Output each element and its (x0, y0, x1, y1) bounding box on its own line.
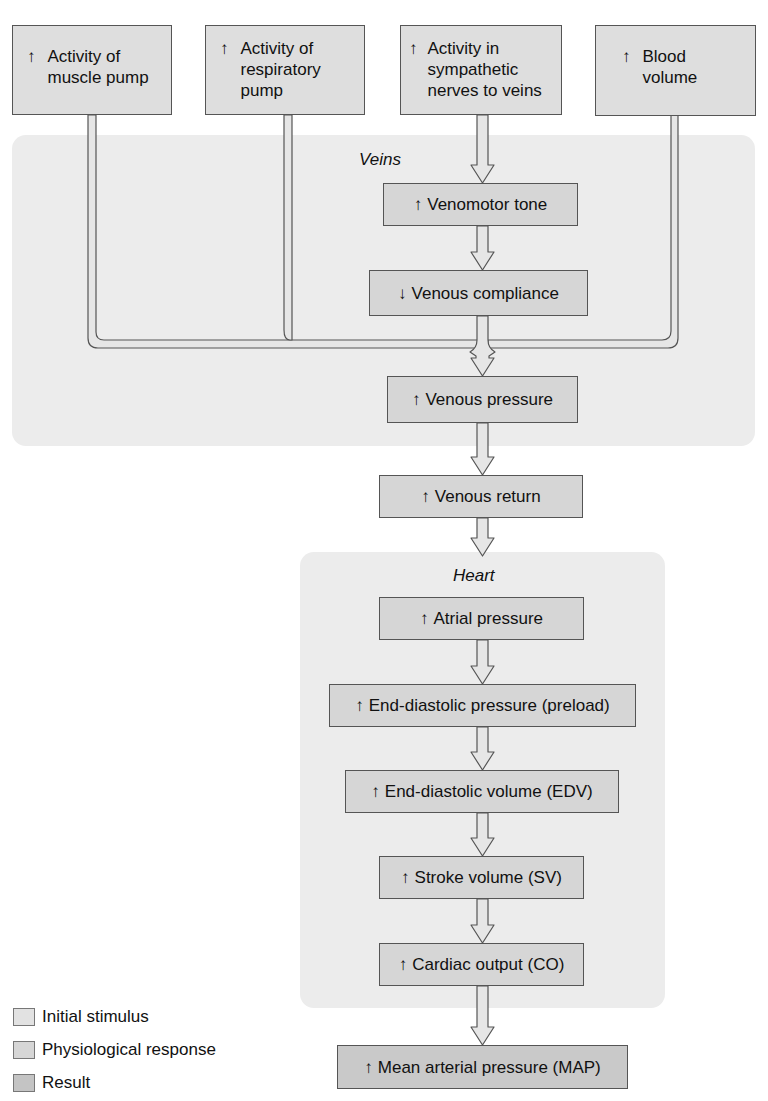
arrow-venomotor-to-compliance (471, 226, 494, 270)
arrow-edv-to-sv (471, 813, 494, 856)
step-stroke-volume: ↑ Stroke volume (SV) (379, 856, 584, 899)
increase-arrow-icon: ↑ (409, 38, 418, 59)
legend-item-result: Result (13, 1066, 216, 1099)
step-label: Venous pressure (425, 389, 553, 410)
increase-arrow-icon: ↑ (421, 486, 430, 507)
result-mean-arterial-pressure: ↑ Mean arterial pressure (MAP) (337, 1045, 628, 1089)
arrow-pressure-to-return (471, 423, 494, 475)
step-venous-compliance: ↓ Venous compliance (369, 270, 588, 316)
step-label: End-diastolic pressure (preload) (369, 695, 610, 716)
increase-arrow-icon: ↑ (420, 608, 429, 629)
stimulus-label: Blood volume (643, 46, 698, 88)
arrow-sympathetic-to-venomotor (471, 115, 494, 183)
step-label: End-diastolic volume (EDV) (385, 781, 593, 802)
increase-arrow-icon: ↑ (412, 389, 421, 410)
increase-arrow-icon: ↑ (414, 194, 423, 215)
legend-label: Initial stimulus (42, 1007, 149, 1027)
stimulus-sympathetic-nerves: ↑ Activity in sympathetic nerves to vein… (400, 25, 562, 115)
legend-item-initial-stimulus: Initial stimulus (13, 1000, 216, 1033)
stimulus-label: Activity in sympathetic nerves to veins (428, 38, 542, 101)
stimulus-blood-volume: ↑ Blood volume (595, 25, 756, 116)
arrow-co-to-map (471, 986, 494, 1045)
increase-arrow-icon: ↑ (355, 695, 364, 716)
stimulus-muscle-pump: ↑ Activity of muscle pump (12, 25, 172, 115)
arrow-return-to-atrial (471, 518, 494, 556)
stimulus-label: Activity of muscle pump (48, 46, 149, 88)
increase-arrow-icon: ↑ (27, 46, 36, 67)
step-label: Stroke volume (SV) (415, 867, 562, 888)
legend-swatch-result (13, 1074, 35, 1092)
step-venous-return: ↑ Venous return (379, 475, 583, 518)
connector-pipes (0, 0, 768, 1101)
legend-label: Result (42, 1073, 90, 1093)
step-cardiac-output: ↑ Cardiac output (CO) (379, 943, 584, 986)
increase-arrow-icon: ↑ (364, 1057, 373, 1078)
legend-swatch-response (13, 1041, 35, 1059)
legend-swatch-stimulus (13, 1008, 35, 1026)
step-label: Atrial pressure (433, 608, 543, 629)
step-venous-pressure: ↑ Venous pressure (387, 376, 578, 423)
decrease-arrow-icon: ↓ (398, 283, 407, 304)
step-atrial-pressure: ↑ Atrial pressure (379, 597, 584, 640)
increase-arrow-icon: ↑ (371, 781, 380, 802)
increase-arrow-icon: ↑ (622, 46, 631, 67)
step-end-diastolic-volume: ↑ End-diastolic volume (EDV) (345, 770, 619, 813)
stimulus-respiratory-pump: ↑ Activity of respiratory pump (205, 25, 365, 115)
step-end-diastolic-pressure: ↑ End-diastolic pressure (preload) (329, 684, 636, 727)
step-label: Cardiac output (CO) (412, 954, 564, 975)
stimulus-label: Activity of respiratory pump (241, 38, 321, 101)
legend-item-physiological-response: Physiological response (13, 1033, 216, 1066)
increase-arrow-icon: ↑ (401, 867, 410, 888)
step-label: Venous return (435, 486, 541, 507)
arrow-edp-to-edv (471, 727, 494, 770)
arrow-atrial-to-edp (471, 640, 494, 684)
increase-arrow-icon: ↑ (220, 38, 229, 59)
step-label: Venomotor tone (427, 194, 547, 215)
step-label: Mean arterial pressure (MAP) (378, 1057, 601, 1078)
legend: Initial stimulus Physiological response … (13, 1000, 216, 1099)
arrow-sv-to-co (471, 899, 494, 943)
step-venomotor-tone: ↑ Venomotor tone (383, 183, 578, 226)
step-label: Venous compliance (412, 283, 559, 304)
increase-arrow-icon: ↑ (399, 954, 408, 975)
legend-label: Physiological response (42, 1040, 216, 1060)
merge-pipe-respiratory (284, 115, 292, 340)
